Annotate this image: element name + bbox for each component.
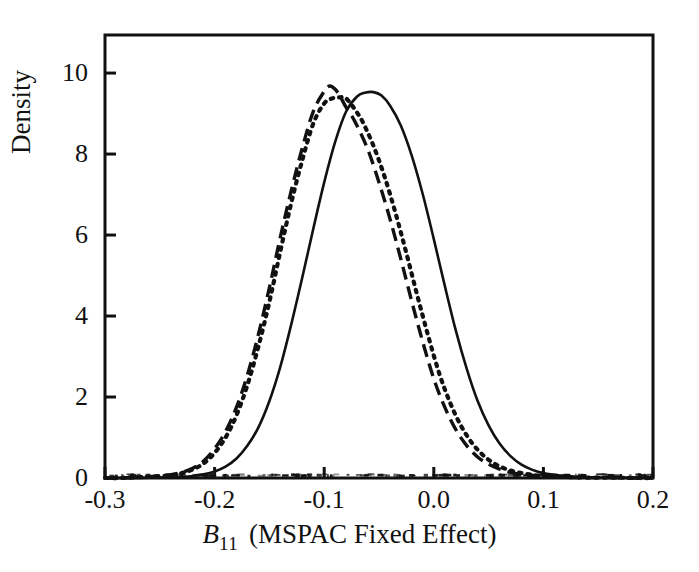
baseline-speckle-mark — [614, 474, 620, 477]
baseline-speckle-mark — [409, 474, 414, 477]
curve-solid-density — [105, 92, 653, 478]
baseline-speckle-mark — [123, 475, 124, 477]
baseline-speckle-mark — [513, 475, 517, 478]
baseline-speckle-mark — [642, 474, 648, 476]
x-tick-label-4: 0.1 — [527, 487, 560, 513]
x-axis-title-rest: (MSPAC Fixed Effect) — [249, 519, 497, 549]
baseline-speckle-mark — [322, 473, 327, 475]
density-curves — [105, 86, 653, 478]
baseline-speckle-mark — [134, 475, 137, 477]
baseline-speckle-mark — [605, 474, 610, 477]
x-tick-label-0: -0.3 — [84, 487, 125, 513]
y-tick-label-3: 6 — [75, 222, 88, 248]
baseline-speckle-mark — [263, 474, 266, 477]
baseline-speckle-mark — [386, 474, 388, 477]
baseline-speckle-mark — [153, 475, 158, 478]
baseline-speckle-mark — [109, 475, 114, 477]
baseline-speckle-mark — [179, 474, 185, 476]
baseline-speckle-mark — [269, 474, 275, 476]
baseline-speckle-mark — [638, 473, 641, 475]
baseline-speckle-mark — [387, 475, 390, 477]
baseline-speckle-mark — [334, 474, 340, 476]
baseline-speckle-mark — [360, 475, 364, 477]
baseline-speckle-mark — [171, 473, 176, 475]
y-tick-label-2: 4 — [75, 303, 88, 329]
x-axis-variable: B — [202, 519, 219, 549]
baseline-speckle-mark — [629, 474, 632, 476]
baseline-speckle-mark — [317, 474, 318, 476]
curve-dotted-density — [105, 97, 653, 478]
baseline-speckle-mark — [258, 475, 264, 477]
baseline-speckle-mark — [330, 474, 333, 477]
baseline-speckle-mark — [282, 474, 289, 476]
baseline-speckle-mark — [502, 474, 507, 476]
baseline-speckle-mark — [227, 475, 229, 478]
baseline-speckle-mark — [499, 473, 502, 475]
axes-frame — [105, 35, 653, 478]
baseline-speckle-mark — [223, 474, 227, 476]
curve-dashed-density — [105, 86, 653, 478]
baseline-speckle-mark — [377, 474, 383, 477]
baseline-speckle-mark — [473, 474, 477, 476]
baseline-speckle-mark — [308, 474, 312, 477]
baseline-speckle-mark — [575, 474, 577, 476]
baseline-speckle-mark — [468, 474, 470, 476]
baseline-speckle-mark — [130, 474, 135, 476]
x-tick-label-5: 0.2 — [637, 487, 670, 513]
baseline-speckle-mark — [368, 473, 375, 475]
baseline-speckle-mark — [456, 474, 460, 477]
y-tick-label-5: 10 — [62, 60, 88, 86]
x-axis-subscript: 11 — [219, 533, 242, 554]
baseline-speckle-mark — [231, 475, 237, 477]
baseline-speckle-mark — [424, 474, 428, 477]
baseline-speckle-mark — [115, 475, 118, 477]
baseline-speckle-mark — [582, 474, 587, 477]
y-tick-label-1: 2 — [75, 384, 88, 410]
baseline-speckle-mark — [649, 474, 653, 477]
baseline-speckle-mark — [206, 475, 212, 477]
density-plot-figure: -0.3-0.2-0.10.00.10.2 0246810 B11 (MSPAC… — [0, 0, 699, 572]
x-tick-label-1: -0.2 — [194, 487, 235, 513]
baseline-speckle-mark — [540, 473, 545, 475]
baseline-speckle-mark — [446, 474, 451, 476]
y-tick-label-4: 8 — [75, 141, 88, 167]
baseline-speckle-mark — [508, 474, 513, 477]
y-axis-title: Density — [6, 12, 37, 212]
baseline-speckle-mark — [121, 474, 122, 477]
baseline-speckle-mark — [453, 474, 456, 477]
x-axis-title: B11 (MSPAC Fixed Effect) — [0, 519, 699, 555]
baseline-speckle-mark — [296, 473, 299, 475]
baseline-speckle-mark — [529, 473, 535, 476]
baseline-speckle-mark — [347, 474, 350, 476]
baseline-speckle-mark — [487, 474, 492, 477]
x-tick-label-3: 0.0 — [418, 487, 451, 513]
baseline-speckle-mark — [146, 474, 151, 476]
baseline-speckle-mark — [436, 474, 442, 476]
y-tick-label-0: 0 — [75, 465, 88, 491]
y-tick-marks — [105, 73, 116, 478]
baseline-speckle-mark — [365, 475, 368, 477]
x-tick-label-2: -0.1 — [304, 487, 345, 513]
baseline-speckle-mark — [393, 475, 399, 477]
baseline-speckle-mark — [560, 474, 567, 477]
baseline-speckle-mark — [192, 474, 198, 477]
plot-frame — [105, 35, 653, 478]
baseline-speckle-mark — [298, 475, 302, 477]
baseline-speckle-mark — [291, 474, 297, 477]
baseline-speckle-mark — [247, 475, 250, 478]
baseline-speckle-mark — [552, 474, 557, 477]
